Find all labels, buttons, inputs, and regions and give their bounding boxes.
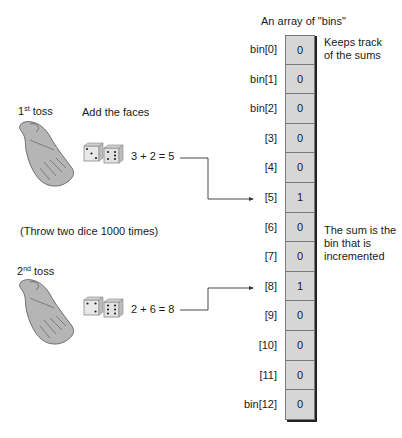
arrow-to-bin-8 (180, 288, 253, 310)
dice-icon (84, 143, 123, 163)
hand-icon (20, 122, 74, 186)
dice-icon (84, 297, 123, 317)
diagram-graphics (0, 0, 402, 438)
arrow-to-bin-5 (180, 158, 253, 199)
hand-icon (20, 280, 74, 344)
